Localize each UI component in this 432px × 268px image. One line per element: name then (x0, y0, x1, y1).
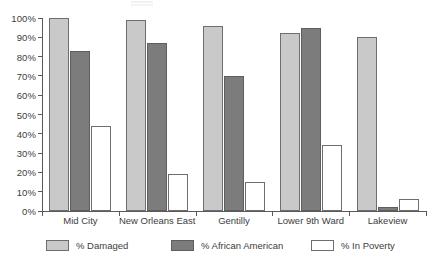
chart-legend: % Damaged% African American% In Poverty (0, 240, 432, 260)
legend-item: % In Poverty (311, 240, 395, 251)
x-axis-label: Lower 9th Ward (277, 215, 344, 226)
bar (168, 174, 188, 211)
x-axis-line (42, 211, 427, 212)
bar (280, 33, 300, 211)
bar (378, 207, 398, 211)
y-axis-tick-label: 100% (11, 13, 42, 24)
plot-area (42, 18, 426, 211)
bar (70, 51, 90, 211)
bar (399, 199, 419, 211)
x-axis-tick-mark (349, 211, 350, 216)
x-axis-label: New Orleans East (119, 215, 196, 226)
legend-label: % African American (201, 240, 283, 251)
x-axis-label: Mid City (63, 215, 97, 226)
y-axis-tick-label: 0% (22, 206, 42, 217)
legend-item: % African American (171, 240, 283, 251)
y-axis-tick-label: 50% (17, 109, 42, 120)
y-axis-tick-label: 10% (17, 186, 42, 197)
bar (357, 37, 377, 211)
y-axis-tick-label: 30% (17, 148, 42, 159)
bar-group (119, 18, 196, 211)
y-axis-tick-label: 20% (17, 167, 42, 178)
bar (224, 76, 244, 211)
legend-item: % Damaged (46, 240, 128, 251)
x-axis-tick-mark (272, 211, 273, 216)
x-axis-tick-mark (426, 211, 427, 216)
legend-swatch (311, 240, 334, 251)
x-axis-label: Lakeview (368, 215, 408, 226)
bar (147, 43, 167, 211)
bar-group (272, 18, 349, 211)
y-axis-tick-label: 70% (17, 70, 42, 81)
bar (322, 145, 342, 211)
legend-label: % Damaged (76, 240, 128, 251)
bar (301, 28, 321, 211)
bar (91, 126, 111, 211)
x-axis-label: Gentilly (218, 215, 250, 226)
legend-label: % In Poverty (341, 240, 395, 251)
y-axis-tick-label: 90% (17, 32, 42, 43)
scan-artifact (131, 1, 153, 6)
legend-swatch (171, 240, 194, 251)
bar-chart: 0%10%20%30%40%50%60%70%80%90%100% Mid Ci… (0, 0, 432, 268)
bar (126, 20, 146, 211)
y-axis-tick-label: 40% (17, 128, 42, 139)
bar (203, 26, 223, 211)
x-axis-tick-mark (196, 211, 197, 216)
x-axis-tick-mark (42, 211, 43, 216)
bar (245, 182, 265, 211)
x-axis-tick-mark (119, 211, 120, 216)
bar (49, 18, 69, 211)
y-axis-tick-label: 80% (17, 51, 42, 62)
legend-swatch (46, 240, 69, 251)
y-axis-tick-label: 60% (17, 90, 42, 101)
bar-group (42, 18, 119, 211)
bar-group (196, 18, 273, 211)
bar-group (349, 18, 426, 211)
